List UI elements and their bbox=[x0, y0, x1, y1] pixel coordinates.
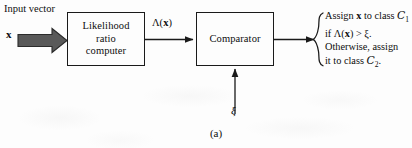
decision-line2-pre: if Λ( bbox=[325, 28, 345, 39]
threshold-symbol-label: ξ bbox=[231, 104, 236, 116]
likelihood-ratio-computer-block: Likelihood ratio computer bbox=[67, 12, 145, 66]
likelihood-ratio-computer-label: Likelihood ratio computer bbox=[82, 20, 129, 57]
decision-line2-post: ) > ξ. bbox=[350, 28, 372, 39]
left-curly-brace-icon bbox=[313, 13, 323, 66]
comparator-label: Comparator bbox=[209, 33, 260, 45]
input-block-arrow-icon bbox=[18, 29, 67, 53]
class-subscript-1: 1 bbox=[405, 15, 409, 24]
decision-rule-text: Assign x to class C1 if Λ(x) > ξ. Otherw… bbox=[325, 9, 412, 71]
decision-line-2: if Λ(x) > ξ. bbox=[325, 27, 412, 41]
lambda-suffix: ) bbox=[168, 17, 172, 28]
decision-line-4: it to class C2. bbox=[325, 54, 412, 72]
input-vector-symbol: x bbox=[6, 28, 12, 40]
block-line: computer bbox=[82, 45, 129, 57]
input-vector-label: Input vector bbox=[4, 3, 55, 14]
lambda-signal-label: Λ(x) bbox=[152, 17, 172, 28]
block-line: Comparator bbox=[209, 33, 260, 45]
decision-line4-post: . bbox=[379, 55, 382, 66]
figure-caption: (a) bbox=[202, 127, 230, 139]
decision-line-3: Otherwise, assign bbox=[325, 40, 412, 54]
block-diagram-figure: Input vector x Likelihood ratio computer… bbox=[0, 0, 412, 148]
decision-line1-pre: Assign bbox=[325, 10, 356, 21]
class-symbol-2: C bbox=[366, 54, 374, 67]
decision-line1-post: to class bbox=[361, 10, 397, 21]
block-line: ratio bbox=[82, 33, 129, 45]
lambda-prefix: Λ( bbox=[152, 17, 163, 28]
comparator-block: Comparator bbox=[196, 12, 274, 66]
decision-line4-pre: it to class bbox=[325, 55, 366, 66]
decision-line-1: Assign x to class C1 bbox=[325, 9, 412, 27]
block-line: Likelihood bbox=[82, 20, 129, 32]
